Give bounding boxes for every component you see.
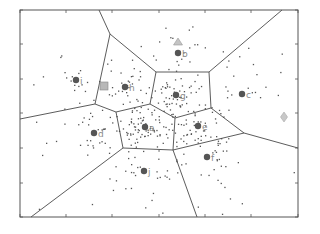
voronoi-edge [173, 150, 197, 217]
sample-point [226, 67, 227, 68]
sample-point [132, 112, 133, 113]
sample-point [157, 178, 158, 179]
sample-point [231, 94, 232, 95]
sample-point [166, 82, 167, 83]
sample-point [92, 116, 93, 117]
sample-point [60, 57, 61, 58]
sample-point [215, 150, 216, 151]
sample-point [146, 93, 147, 94]
sample-point [87, 145, 88, 146]
sample-point [99, 142, 100, 143]
sample-point [224, 187, 225, 188]
sample-point [189, 87, 190, 88]
sample-point [121, 83, 122, 84]
site-b-dot [175, 50, 181, 56]
sample-point [158, 150, 159, 151]
sample-point [120, 72, 121, 73]
sample-point [180, 106, 181, 107]
sample-point [105, 128, 106, 129]
sample-point [132, 76, 133, 77]
sample-point [74, 85, 75, 86]
sample-point [189, 47, 190, 48]
voronoi-edge [211, 108, 244, 133]
sample-point [171, 124, 172, 125]
site-f-dot [204, 154, 210, 160]
sample-point [146, 130, 147, 131]
sample-point [156, 59, 157, 60]
sample-point [131, 145, 132, 146]
sample-point [143, 151, 144, 152]
sample-point [252, 92, 253, 93]
voronoi-edge [209, 10, 282, 72]
sample-point [216, 122, 217, 123]
sample-point [141, 134, 142, 135]
sample-point [79, 103, 80, 104]
sample-point [118, 91, 119, 92]
sample-point [72, 76, 73, 77]
sample-point [191, 92, 192, 93]
sample-point [253, 64, 254, 65]
sample-point [198, 138, 199, 139]
sample-point [178, 65, 179, 66]
sample-point [36, 122, 37, 123]
sample-point [144, 136, 145, 137]
sample-point [140, 112, 141, 113]
sample-point [169, 87, 170, 88]
sample-point [220, 113, 221, 114]
sample-point [282, 54, 283, 55]
sample-point [169, 98, 170, 99]
sample-point [141, 46, 142, 47]
sample-point [135, 143, 136, 144]
sample-point [193, 111, 194, 112]
site-e-dot [195, 123, 201, 129]
sample-point [46, 143, 47, 144]
voronoi-edge [175, 108, 211, 118]
sample-point [71, 80, 72, 81]
sample-point [80, 145, 81, 146]
sample-point [151, 112, 152, 113]
sample-point [159, 116, 160, 117]
sample-point [166, 134, 167, 135]
sample-point [42, 155, 43, 156]
sample-point [138, 79, 139, 80]
sample-point [186, 103, 187, 104]
sample-point [157, 146, 158, 147]
sample-point [140, 90, 141, 91]
sample-point [233, 76, 234, 77]
sample-point [148, 109, 149, 110]
sample-point [112, 122, 113, 123]
sample-point [159, 41, 160, 42]
sample-point [141, 123, 142, 124]
voronoi-edge [95, 104, 116, 112]
sample-point [138, 129, 139, 130]
sample-point [155, 90, 156, 91]
sample-point [199, 104, 200, 105]
square-marker [100, 82, 108, 90]
sample-point [173, 98, 174, 99]
sample-point [110, 147, 111, 148]
sample-point [221, 166, 222, 167]
sample-point [191, 134, 192, 135]
voronoi-edge [244, 133, 298, 148]
sample-point [186, 123, 187, 124]
sample-point [176, 142, 177, 143]
sample-point [186, 119, 187, 120]
sample-point [101, 141, 102, 142]
sample-point [115, 166, 116, 167]
sample-point [136, 99, 137, 100]
sample-point [109, 153, 110, 154]
sample-point [175, 116, 176, 117]
sample-point [131, 76, 132, 77]
sample-point [112, 87, 113, 88]
sample-point [134, 126, 135, 127]
sample-point [175, 133, 176, 134]
sample-point [131, 188, 132, 189]
site-a-label: a [149, 123, 155, 133]
site-j-dot [141, 168, 147, 174]
sample-point [109, 178, 110, 179]
sample-point [177, 99, 178, 100]
voronoi-edge [95, 34, 110, 104]
sample-point [217, 180, 218, 181]
site-e-label: e [202, 122, 208, 132]
sample-point [158, 103, 159, 104]
